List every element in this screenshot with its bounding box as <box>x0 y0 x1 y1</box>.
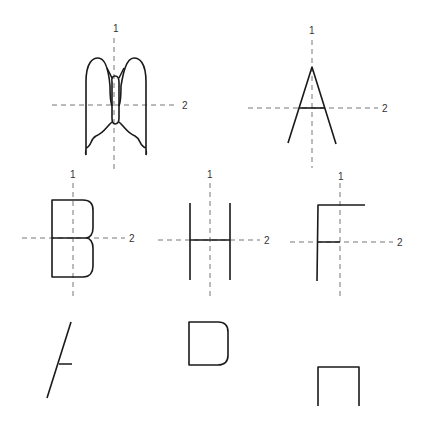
half-letter-a <box>47 322 72 398</box>
butterfly-axis-2-label: 2 <box>182 100 188 111</box>
butterfly-axis-1-label: 1 <box>113 23 119 34</box>
letter-b-figure: 1 2 <box>22 169 135 298</box>
butterfly-figure: 1 2 <box>52 23 188 172</box>
letter-f-shape <box>317 205 365 281</box>
letter-h-axis-1-label: 1 <box>207 169 213 180</box>
letter-f-figure: 1 2 <box>290 171 403 298</box>
letter-f-axis-2-label: 2 <box>397 237 403 248</box>
letter-h-axis-2-label: 2 <box>264 235 270 246</box>
letter-d-shape <box>189 322 228 365</box>
letter-a-figure: 1 2 <box>248 25 388 168</box>
butterfly-body <box>112 76 119 124</box>
letter-f-axis-1-label: 1 <box>338 171 344 182</box>
symmetry-diagram: 1 2 1 2 1 2 1 2 1 2 <box>0 0 425 427</box>
half-letter-h <box>318 367 359 406</box>
letter-a-axis-1-label: 1 <box>309 25 315 36</box>
letter-a-axis-2-label: 2 <box>382 103 388 114</box>
letter-b-axis-2-label: 2 <box>129 233 135 244</box>
letter-h-figure: 1 2 <box>158 169 270 296</box>
letter-b-axis-1-label: 1 <box>70 169 76 180</box>
butterfly-left-wing <box>86 58 112 155</box>
butterfly-right-wing <box>119 58 146 155</box>
